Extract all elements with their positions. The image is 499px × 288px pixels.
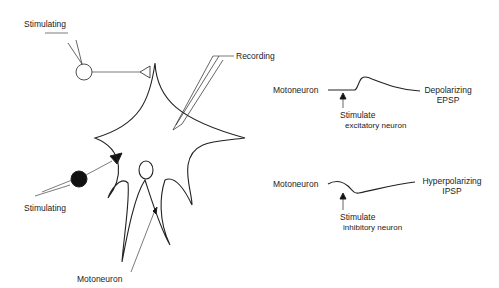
label-motoneuron-cell: Motoneuron — [77, 275, 122, 284]
epsp-right-label-line2: EPSP — [416, 96, 480, 105]
excitatory-stimulating-electrode — [45, 33, 150, 80]
ipsp-left-label: Motoneuron — [273, 180, 318, 189]
epsp-stim-line1: Stimulate — [340, 111, 375, 120]
recording-electrode — [173, 56, 234, 130]
epsp-right-label-line1: Depolarizing — [416, 86, 480, 95]
diagram-canvas: Stimulating Recording Stimulating Motone… — [0, 0, 499, 288]
motoneuron-cell — [95, 63, 245, 262]
ipsp-stim-line2: inhibitory neuron — [343, 224, 402, 232]
ipsp-stimulus-arrow — [340, 193, 346, 210]
ipsp-trace — [328, 182, 415, 194]
label-stimulating-bottom: Stimulating — [24, 204, 66, 213]
epsp-left-label: Motoneuron — [273, 86, 318, 95]
epsp-trace — [328, 77, 420, 91]
epsp-stimulus-arrow — [340, 93, 346, 108]
diagram-drawing — [0, 0, 499, 288]
ipsp-right-label-line2: IPSP — [416, 187, 488, 196]
label-recording: Recording — [236, 52, 275, 61]
ipsp-stim-line1: Stimulate — [340, 213, 375, 222]
motoneuron-pointer — [131, 207, 157, 272]
epsp-stim-line2: excitatory neuron — [345, 122, 406, 130]
label-stimulating-top: Stimulating — [24, 20, 66, 29]
ipsp-right-label-line1: Hyperpolarizing — [416, 177, 488, 186]
inhibitory-stimulating-electrode — [35, 153, 122, 196]
